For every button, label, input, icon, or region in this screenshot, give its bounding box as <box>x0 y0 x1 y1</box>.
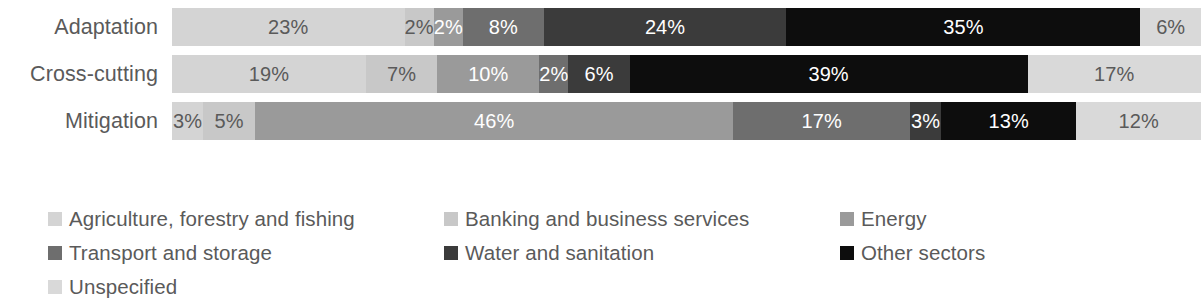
bar-segment-label: 23% <box>268 17 308 37</box>
bar-segment-label: 5% <box>215 111 244 131</box>
bar-segment[interactable]: 35% <box>786 8 1140 46</box>
legend-item-label: Other sectors <box>861 241 985 265</box>
bar-segment[interactable]: 24% <box>544 8 787 46</box>
bar-segment[interactable]: 13% <box>941 102 1076 140</box>
bar-segment-label: 10% <box>468 64 508 84</box>
legend-item-label: Banking and business services <box>465 207 749 231</box>
bar-row: Cross-cutting 19% 7% 10% 2% 6% 39% 17% <box>0 55 1201 93</box>
bar-segment-label: 3% <box>911 111 940 131</box>
bar-segment[interactable]: 17% <box>733 102 910 140</box>
bar-segment[interactable]: 7% <box>366 55 437 93</box>
legend-swatch-icon <box>840 212 854 226</box>
bar-segment[interactable]: 3% <box>910 102 941 140</box>
bar-segment-label: 8% <box>489 17 518 37</box>
bar-row: Adaptation 23% 2% 2% 8% 24% 35% 6% <box>0 8 1201 46</box>
category-label-adaptation: Adaptation <box>0 8 158 46</box>
bar-segment-label: 2% <box>405 17 434 37</box>
chart-plot-area: Adaptation 23% 2% 2% 8% 24% 35% 6% Cross… <box>0 0 1201 150</box>
legend-swatch-icon <box>444 246 458 260</box>
legend-item[interactable]: Banking and business services <box>444 204 749 234</box>
category-label-cross-cutting: Cross-cutting <box>0 55 158 93</box>
bar-segment-label: 35% <box>943 17 983 37</box>
bar-segment[interactable]: 2% <box>539 55 568 93</box>
bar-segment-label: 2% <box>434 17 463 37</box>
legend-item-label: Energy <box>861 207 927 231</box>
stacked-bar-chart: Adaptation 23% 2% 2% 8% 24% 35% 6% Cross… <box>0 0 1201 298</box>
legend-item[interactable]: Unspecified <box>48 272 177 298</box>
bar-segment[interactable]: 12% <box>1076 102 1201 140</box>
bar-segment[interactable]: 3% <box>172 102 203 140</box>
bar-segment[interactable]: 6% <box>568 55 629 93</box>
legend-item-label: Water and sanitation <box>465 241 654 265</box>
chart-legend: Agriculture, forestry and fishing Bankin… <box>0 198 1201 298</box>
bar-track-cross-cutting: 19% 7% 10% 2% 6% 39% 17% <box>172 55 1201 93</box>
legend-swatch-icon <box>444 212 458 226</box>
bar-track-mitigation: 3% 5% 46% 17% 3% 13% 12% <box>172 102 1201 140</box>
bar-segment-label: 12% <box>1118 111 1158 131</box>
legend-swatch-icon <box>840 246 854 260</box>
legend-item-label: Transport and storage <box>69 241 272 265</box>
bar-segment-label: 13% <box>989 111 1029 131</box>
bar-track-adaptation: 23% 2% 2% 8% 24% 35% 6% <box>172 8 1201 46</box>
legend-item[interactable]: Other sectors <box>840 238 985 268</box>
legend-item[interactable]: Transport and storage <box>48 238 272 268</box>
bar-segment-label: 2% <box>539 64 568 84</box>
bar-segment-label: 6% <box>584 64 613 84</box>
legend-item[interactable]: Agriculture, forestry and fishing <box>48 204 355 234</box>
category-label-mitigation: Mitigation <box>0 102 158 140</box>
bar-segment-label: 17% <box>1094 64 1134 84</box>
legend-swatch-icon <box>48 246 62 260</box>
bar-segment[interactable]: 23% <box>172 8 405 46</box>
bar-segment-label: 3% <box>173 111 202 131</box>
bar-segment-label: 19% <box>249 64 289 84</box>
bar-segment[interactable]: 5% <box>203 102 255 140</box>
bar-segment-label: 46% <box>474 111 514 131</box>
bar-row: Mitigation 3% 5% 46% 17% 3% 13% 12% <box>0 102 1201 140</box>
bar-segment[interactable]: 46% <box>255 102 733 140</box>
legend-item[interactable]: Energy <box>840 204 927 234</box>
bar-segment[interactable]: 19% <box>172 55 366 93</box>
bar-segment[interactable]: 39% <box>630 55 1028 93</box>
legend-item[interactable]: Water and sanitation <box>444 238 654 268</box>
bar-segment-label: 7% <box>387 64 416 84</box>
bar-segment-label: 24% <box>645 17 685 37</box>
bar-segment-label: 17% <box>801 111 841 131</box>
legend-item-label: Unspecified <box>69 275 177 298</box>
legend-swatch-icon <box>48 280 62 294</box>
legend-swatch-icon <box>48 212 62 226</box>
bar-segment[interactable]: 17% <box>1028 55 1201 93</box>
bar-segment[interactable]: 2% <box>434 8 463 46</box>
bar-segment[interactable]: 6% <box>1140 8 1201 46</box>
bar-segment-label: 39% <box>808 64 848 84</box>
bar-segment-label: 6% <box>1156 17 1185 37</box>
legend-item-label: Agriculture, forestry and fishing <box>69 207 355 231</box>
bar-segment[interactable]: 2% <box>405 8 434 46</box>
bar-segment[interactable]: 10% <box>437 55 539 93</box>
bar-segment[interactable]: 8% <box>463 8 544 46</box>
